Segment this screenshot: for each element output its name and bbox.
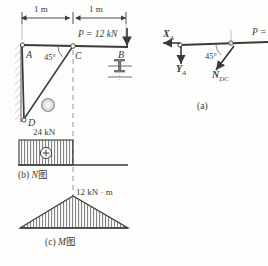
fbd-label-ya: YA [176, 64, 186, 77]
node-label-c: C [75, 51, 82, 61]
fbd-load-label-p: P = [252, 28, 266, 38]
m-diagram-graphics [18, 192, 132, 232]
node-label-a: A [26, 50, 32, 60]
fbd-beam-line [180, 42, 268, 45]
dimension-label-left: 1 m [34, 5, 48, 14]
m-caption-prefix: (c) [45, 237, 58, 247]
dimension-label-right: 1 m [89, 5, 103, 14]
fixed-wall-hatching-icon [15, 44, 21, 122]
fbd-xa-symbol: X [163, 28, 170, 39]
load-label-p: P = 12 kN [78, 30, 117, 40]
fbd-angle-label-45: 45° [205, 52, 217, 61]
pin-circle-icon [42, 99, 54, 111]
fbd-ya-subscript: A [182, 69, 186, 76]
column-member-AD [22, 45, 24, 120]
angle-arc-45 [58, 46, 63, 57]
fbd-caption: (a) [197, 102, 208, 112]
pin-joint-c [71, 44, 76, 49]
angle-label-45: 45° [44, 53, 56, 62]
n-diagram-caption: (b) N图 [18, 170, 48, 181]
fbd-label-xa: XA [163, 29, 174, 42]
fbd-label-ndc: NDC [212, 70, 229, 83]
m-caption-suffix: 图 [66, 236, 76, 247]
node-label-b: B [118, 50, 124, 60]
n-caption-suffix: 图 [38, 169, 48, 180]
n-diagram-graphics [18, 140, 128, 165]
m-diagram-value-label: 12 kN · m [76, 188, 113, 197]
n-diagram-value-label: 24 kN [33, 128, 55, 137]
m-diagram-caption: (c) M图 [45, 237, 76, 248]
mechanics-figure: 1 m 1 m P = 12 kN A B C D 45° 24 kN (b) … [0, 0, 268, 266]
pin-joint-a [20, 43, 24, 47]
n-caption-prefix: (b) [18, 170, 31, 180]
compression-plus-circle-icon [40, 147, 51, 158]
fbd-ndc-subscript: DC [219, 75, 228, 82]
fbd-arrow-ndc [216, 46, 234, 70]
pin-joint-d [22, 118, 26, 122]
m-caption-symbol: M [58, 237, 66, 247]
fbd-xa-subscript: A [170, 34, 174, 41]
